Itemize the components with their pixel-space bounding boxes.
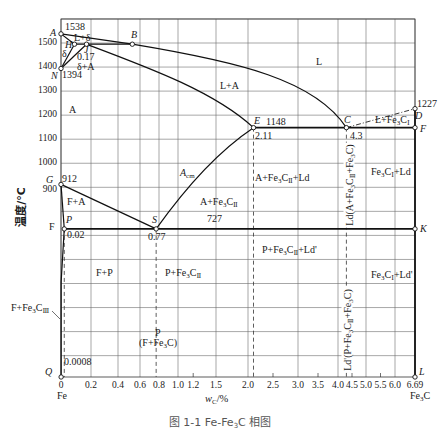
x-tick-label: 3.0 bbox=[292, 380, 304, 391]
point-label-b: B bbox=[131, 29, 137, 40]
point-label-d: D bbox=[415, 110, 422, 121]
x-tick-label: 1.5 bbox=[210, 380, 222, 391]
region-label-l-a: L+A bbox=[220, 80, 239, 91]
x-tick-label: 4.0 bbox=[332, 380, 344, 391]
point-label-a: A bbox=[50, 27, 56, 38]
grid-layer bbox=[61, 19, 415, 377]
region-label-l-fe3ci: L+Fe3CⅠ bbox=[375, 114, 410, 125]
left-axis-f-label: F bbox=[49, 221, 55, 232]
value-label-1148: 1148 bbox=[266, 116, 286, 127]
line-label-transformed-ledeburite: Ld'(P+Fe3CⅡ+Fe3C) bbox=[342, 287, 353, 373]
x-tick-label: 5.5 bbox=[375, 380, 387, 391]
region-label-a: A bbox=[69, 104, 76, 115]
point-marker-b bbox=[130, 42, 134, 46]
point-label-l: L bbox=[419, 366, 425, 377]
x-end-label-fe: Fe bbox=[57, 390, 67, 401]
point-label-g: G bbox=[46, 174, 53, 185]
y-tick-label: 1300 bbox=[0, 85, 57, 96]
x-axis-label-var: w bbox=[205, 393, 212, 404]
region-label-f-fe3ciii: F+Fe3CⅢ bbox=[11, 302, 49, 313]
point-marker-f bbox=[413, 125, 417, 129]
region-label-a-fe3cii-ld: A+Fe3CⅡ+Ld bbox=[255, 172, 310, 183]
value-label-0-0008: 0.0008 bbox=[64, 356, 92, 367]
point-marker-a bbox=[59, 32, 63, 36]
line-label-acm: Acm bbox=[180, 167, 195, 178]
point-label-c: C bbox=[344, 114, 351, 125]
point-marker-q bbox=[59, 375, 63, 379]
leader-line-f-fe3ciii bbox=[52, 311, 60, 319]
x-tick-label: 2.5 bbox=[267, 380, 279, 391]
x-tick-label: 0.6 bbox=[134, 380, 146, 391]
point-label-k: K bbox=[420, 223, 427, 234]
value-label-0-02: 0.02 bbox=[67, 229, 85, 240]
line-label-acm-sub: cm bbox=[186, 172, 195, 180]
x-axis-label: wC/% bbox=[205, 393, 228, 404]
point-label-f: F bbox=[420, 123, 426, 134]
y-tick-label: 1400 bbox=[0, 61, 57, 72]
x-tick-label: 6.0 bbox=[389, 380, 401, 391]
region-label-p-fe3cii-ld2: P+Fe3CⅡ+Ld' bbox=[262, 244, 317, 255]
boundary-es bbox=[156, 128, 253, 229]
point-marker-c bbox=[344, 125, 348, 129]
value-label-727: 727 bbox=[207, 213, 222, 224]
region-label-l: L bbox=[316, 56, 322, 67]
boundary-gp bbox=[61, 184, 64, 228]
value-label-912: 912 bbox=[62, 173, 77, 184]
boundary-pq bbox=[61, 229, 64, 377]
y-tick-label: 1000 bbox=[0, 157, 57, 168]
region-label-fe3ci-ld: Fe3CⅠ+Ld bbox=[371, 166, 411, 177]
point-label-q: Q bbox=[45, 366, 52, 377]
region-label-pearlite-desc: (F+Fe3C) bbox=[139, 337, 177, 348]
y-tick-label: 1200 bbox=[0, 109, 57, 120]
x-tick-label: 3.5 bbox=[312, 380, 324, 391]
x-axis-label-unit: /% bbox=[217, 393, 229, 404]
x-tick-label: 0.2 bbox=[85, 380, 97, 391]
region-label-f-p: F+P bbox=[96, 267, 113, 278]
line-label-ledeburite: Ld(A+Fe3CⅡ+Fe3C) bbox=[344, 142, 355, 227]
value-label-2-11: 2.11 bbox=[255, 130, 272, 141]
x-tick-label: 5.0 bbox=[360, 380, 372, 391]
y-tick-label: 1100 bbox=[0, 133, 57, 144]
x-tick-label: 1.2 bbox=[187, 380, 199, 391]
y-tick-label: 900 bbox=[0, 184, 57, 195]
minor-tick-layer bbox=[193, 373, 380, 377]
plot-frame bbox=[61, 19, 415, 377]
x-tick-label: 0.8 bbox=[153, 380, 165, 391]
region-label-delta: δ bbox=[62, 48, 67, 59]
x-tick-label: 2.0 bbox=[242, 380, 254, 391]
region-label-f-a: F+A bbox=[67, 196, 85, 207]
point-label-n: N bbox=[51, 70, 58, 81]
value-label-1538: 1538 bbox=[65, 21, 85, 32]
x-tick-label: 0.4 bbox=[112, 380, 124, 391]
x-end-label-fe3c: Fe3C bbox=[410, 390, 430, 401]
point-label-p: P bbox=[66, 214, 72, 225]
point-label-s: S bbox=[152, 214, 157, 225]
y-tick-label: 1500 bbox=[0, 37, 57, 48]
point-label-e: E bbox=[254, 115, 260, 126]
point-marker-l bbox=[413, 375, 417, 379]
x-tick-label: 1.0 bbox=[172, 380, 184, 391]
value-label-1227: 1227 bbox=[417, 98, 437, 109]
region-label-delta-a: δ+A bbox=[77, 61, 95, 72]
point-marker-k bbox=[413, 227, 417, 231]
figure-caption: 图 1-1 Fe-Fe3C 相图 bbox=[169, 413, 272, 429]
point-marker-p bbox=[62, 227, 66, 231]
value-label-0-77: 0.77 bbox=[148, 231, 166, 242]
region-label-fe3ci-ld2: Fe3CⅠ+Ld' bbox=[371, 269, 413, 280]
region-label-l-delta: L+δ bbox=[74, 32, 90, 43]
region-label-a-fe3cii: A+Fe3CⅡ bbox=[200, 196, 238, 207]
x-tick-label: 4.5 bbox=[346, 380, 358, 391]
value-label-4-3: 4.3 bbox=[350, 130, 363, 141]
region-label-p-fe3cii: P+Fe3CⅡ bbox=[165, 267, 201, 278]
